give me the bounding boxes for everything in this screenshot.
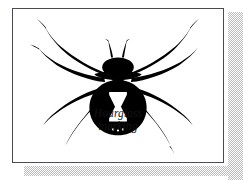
leg-tip-front-right xyxy=(190,19,199,29)
leg-front-left xyxy=(45,27,107,76)
caption-line-1: Hourglass xyxy=(15,107,221,120)
pedipalp-left xyxy=(108,41,113,58)
caption-line-2: marking xyxy=(15,120,221,133)
leg-front-right xyxy=(129,27,191,76)
spider-drawing xyxy=(15,11,221,160)
pedipalp-left-hook xyxy=(104,39,109,42)
frame-inner-area: Hourglass marking xyxy=(15,11,221,160)
illustration-frame: Hourglass marking xyxy=(12,8,224,163)
leg-tip-second-left xyxy=(30,45,39,50)
leg-tip-front-left xyxy=(37,19,46,29)
leg-second-left xyxy=(38,48,105,83)
pedipalp-right xyxy=(122,41,127,58)
spider-illustration xyxy=(15,11,221,160)
figure-caption: Hourglass marking xyxy=(15,107,221,133)
leg-second-right xyxy=(131,48,198,83)
pedipalp-right-hook xyxy=(126,39,131,42)
leg-tip-rear-right xyxy=(169,146,174,154)
drop-shadow-right xyxy=(228,12,243,180)
drop-shadow-bottom xyxy=(24,166,243,176)
spider-figure: Hourglass marking xyxy=(0,0,243,180)
